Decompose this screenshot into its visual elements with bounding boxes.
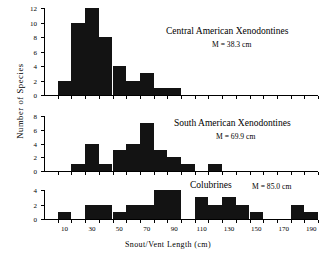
x-tick <box>291 172 292 175</box>
x-tick <box>167 96 168 99</box>
bar <box>222 197 236 219</box>
y-tick-label: 2 <box>34 78 38 85</box>
x-tick <box>181 96 182 99</box>
bar <box>140 205 154 220</box>
x-tick <box>58 220 59 223</box>
bar <box>181 164 195 171</box>
x-tick-label: 130 <box>224 226 235 233</box>
x-tick <box>208 172 209 175</box>
bar <box>167 88 181 95</box>
x-tick-label: 10 <box>61 226 68 233</box>
y-tick <box>41 95 44 96</box>
x-tick <box>291 96 292 99</box>
x-tick-label: 90 <box>171 226 178 233</box>
x-axis-title: Snout/Vent Length (cm) <box>0 240 336 249</box>
y-tick <box>41 66 44 67</box>
x-tick <box>291 220 292 223</box>
x-tick <box>113 220 114 223</box>
bar <box>126 205 140 220</box>
x-tick <box>71 220 72 223</box>
x-tick <box>250 172 251 175</box>
x-tick <box>71 172 72 175</box>
x-tick <box>195 220 196 223</box>
x-tick <box>304 96 305 99</box>
x-tick <box>236 172 237 175</box>
y-tick-label: 0 <box>34 169 38 176</box>
x-tick <box>222 96 223 99</box>
x-tick <box>126 220 127 223</box>
x-tick <box>195 96 196 99</box>
panel-central-american-xenodontines: 024681012 Central American Xenodontines … <box>44 8 318 96</box>
panel-subtitle: M = 38.3 cm <box>212 40 251 49</box>
panel-title: South American Xenodontines <box>174 118 291 128</box>
bar <box>99 164 113 171</box>
y-tick-label: 4 <box>34 188 38 195</box>
x-tick-label: 30 <box>88 226 95 233</box>
y-tick-label: 12 <box>30 6 37 13</box>
x-tick <box>277 220 278 223</box>
y-tick-label: 8 <box>34 114 38 121</box>
x-tick <box>250 96 251 99</box>
bar <box>99 37 113 95</box>
bar <box>58 81 72 96</box>
y-tick <box>41 219 44 220</box>
panel-title: Central American Xenodontines <box>166 26 288 36</box>
bar-series <box>44 190 318 219</box>
y-tick <box>41 37 44 38</box>
x-tick-label: 170 <box>279 226 290 233</box>
x-tick <box>154 96 155 99</box>
bar <box>99 205 113 220</box>
x-tick <box>181 220 182 223</box>
bar <box>154 190 168 219</box>
bar <box>85 205 99 220</box>
y-tick <box>41 157 44 158</box>
x-tick <box>99 220 100 223</box>
x-tick <box>140 220 141 223</box>
bar <box>250 212 264 219</box>
bar <box>85 8 99 95</box>
bar <box>71 23 85 96</box>
x-tick <box>195 172 196 175</box>
x-tick <box>208 220 209 223</box>
x-tick <box>113 96 114 99</box>
x-tick <box>167 172 168 175</box>
x-tick <box>304 172 305 175</box>
x-tick <box>85 96 86 99</box>
x-tick <box>113 172 114 175</box>
bar <box>291 205 305 220</box>
x-tick <box>71 96 72 99</box>
y-tick <box>41 52 44 53</box>
x-tick <box>99 96 100 99</box>
y-tick-label: 10 <box>30 20 37 27</box>
panel-title: Colubrines <box>190 180 232 190</box>
bar <box>154 150 168 171</box>
x-tick <box>318 172 319 175</box>
bar <box>71 164 85 171</box>
x-tick <box>236 220 237 223</box>
y-axis-title: Number of Species <box>15 31 25 171</box>
x-tick <box>263 220 264 223</box>
x-tick <box>208 96 209 99</box>
bar <box>304 212 318 219</box>
x-tick-label: 70 <box>143 226 150 233</box>
bar <box>195 197 209 219</box>
panel-subtitle: M = 69.9 cm <box>216 132 255 141</box>
y-tick-label: 4 <box>34 141 38 148</box>
y-tick-label: 2 <box>34 202 38 209</box>
bar <box>58 212 72 219</box>
bar <box>208 205 222 220</box>
bar <box>113 212 127 219</box>
x-tick <box>263 172 264 175</box>
x-tick <box>222 220 223 223</box>
y-tick-label: 6 <box>34 49 38 56</box>
x-tick <box>318 220 319 223</box>
x-tick <box>126 172 127 175</box>
x-tick <box>85 172 86 175</box>
x-tick <box>236 96 237 99</box>
y-tick <box>41 205 44 206</box>
y-tick <box>41 130 44 131</box>
y-tick <box>41 8 44 9</box>
bar <box>85 144 99 172</box>
x-tick <box>222 172 223 175</box>
y-tick-label: 4 <box>34 64 38 71</box>
